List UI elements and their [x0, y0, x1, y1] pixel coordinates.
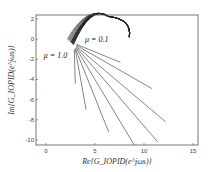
x-tick-label: 5	[93, 148, 97, 154]
ray-line	[74, 49, 75, 83]
ray-line	[76, 48, 134, 145]
plot-frame	[36, 15, 198, 145]
mu-annotation: μ = 1.0	[43, 51, 67, 60]
y-tick-label: -10	[25, 137, 34, 143]
plot-area	[67, 13, 165, 145]
y-tick-label: -4	[29, 76, 35, 82]
ray-line	[76, 47, 157, 142]
x-tick-label: 10	[141, 148, 148, 154]
x-tick-label: 15	[190, 148, 197, 154]
y-axis-label: Im{G_IOPID(e^jωs)}	[7, 44, 16, 115]
nyquist-chart: 051015 20-2-4-6-8-10 Re{G_IOPID(e^jωs)} …	[0, 0, 210, 172]
x-axis-label: Re{G_IOPID(e^jωs)}	[81, 157, 152, 166]
y-tick-label: -6	[29, 97, 35, 103]
y-tick-label: -2	[29, 56, 35, 62]
y-tick-label: 2	[31, 16, 35, 22]
ray-line	[75, 49, 86, 109]
y-tick-label: 0	[31, 36, 35, 42]
y-tick-label: -8	[29, 117, 35, 123]
x-tick-label: 0	[44, 148, 48, 154]
mu-annotation: μ = 0.1	[84, 35, 108, 44]
